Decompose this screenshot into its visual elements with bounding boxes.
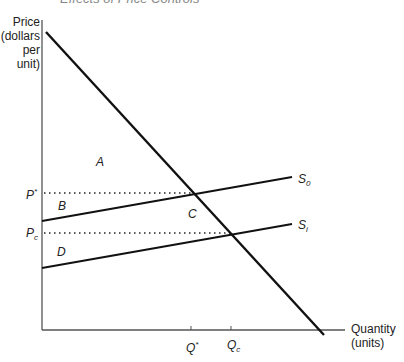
q-c-label: Qc	[227, 338, 240, 357]
region-c-label: C	[188, 207, 197, 221]
x-axis-title-line2: (units)	[351, 336, 396, 350]
demand-curve	[46, 32, 324, 335]
supply-curve-s0	[42, 177, 292, 221]
supply-demand-diagram	[0, 0, 404, 362]
p-star-label: P*	[26, 185, 37, 202]
y-axis-title-line1: Price	[0, 15, 40, 29]
y-axis-title-line3: per unit)	[0, 43, 40, 71]
x-axis-title: Quantity (units)	[351, 322, 396, 350]
s0-label: S0	[298, 172, 310, 191]
x-axis-title-line1: Quantity	[351, 322, 396, 336]
y-axis-title-line2: (dollars	[0, 29, 40, 43]
supply-curve-si	[42, 224, 292, 268]
si-label: Si	[298, 218, 308, 237]
q-star-label: Q*	[186, 338, 198, 355]
y-axis-title: Price (dollars per unit)	[0, 15, 40, 71]
region-b-label: B	[58, 199, 66, 213]
p-c-label: Pc	[26, 226, 38, 245]
region-a-label: A	[96, 155, 104, 169]
region-d-label: D	[57, 245, 66, 259]
